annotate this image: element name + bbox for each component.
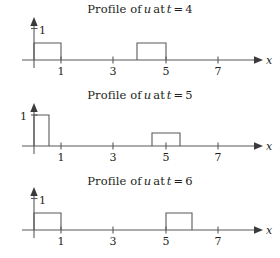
profile-panel-t4: Profile ofuatt=4 x 1 1 3 5 xyxy=(0,0,280,86)
y-axis-arrowhead xyxy=(30,17,37,26)
pulse-rect-left xyxy=(34,115,49,146)
profile-figure: Profile ofuatt=4 x 1 1 3 5 xyxy=(0,0,280,258)
x-tick-label-7: 7 xyxy=(215,65,222,78)
y-axis-tick-label-1: 1 xyxy=(39,24,46,37)
x-tick-label-5: 5 xyxy=(163,151,170,164)
profile-panel-t6: Profile ofuatt=6 x 1 1 3 5 7 xyxy=(0,172,280,258)
y-axis-tick-label-1: 1 xyxy=(20,110,27,123)
x-tick-label-1: 1 xyxy=(58,235,65,248)
x-axis-label: x xyxy=(266,224,273,237)
y-axis-arrowhead xyxy=(30,187,37,196)
pulse-rect-right xyxy=(137,43,166,60)
x-axis-arrowhead xyxy=(254,226,263,234)
plot-area-t4: x 1 1 3 5 7 xyxy=(0,0,280,86)
x-tick-label-7: 7 xyxy=(215,151,222,164)
profile-panel-t5: Profile ofuatt=5 x 1 1 3 5 7 xyxy=(0,86,280,172)
x-tick-label-3: 3 xyxy=(110,235,117,248)
x-tick-label-7: 7 xyxy=(215,235,222,248)
pulse-rect-left xyxy=(34,213,61,230)
plot-area-t5: x 1 1 3 5 7 xyxy=(0,86,280,172)
plot-area-t6: x 1 1 3 5 7 xyxy=(0,172,280,258)
pulse-rect-left xyxy=(34,43,61,60)
y-axis-tick-label-1: 1 xyxy=(39,194,46,207)
x-tick-label-1: 1 xyxy=(58,151,65,164)
x-tick-label-1: 1 xyxy=(58,65,65,78)
x-axis-label: x xyxy=(266,140,273,153)
x-tick-label-3: 3 xyxy=(110,65,117,78)
x-tick-label-3: 3 xyxy=(110,151,117,164)
x-tick-label-5: 5 xyxy=(163,235,170,248)
x-axis-arrowhead xyxy=(254,56,263,64)
x-axis-arrowhead xyxy=(254,142,263,150)
pulse-rect-right xyxy=(166,213,192,230)
x-tick-label-5: 5 xyxy=(163,65,170,78)
y-axis-arrowhead xyxy=(30,103,37,112)
x-axis-label: x xyxy=(266,54,273,67)
